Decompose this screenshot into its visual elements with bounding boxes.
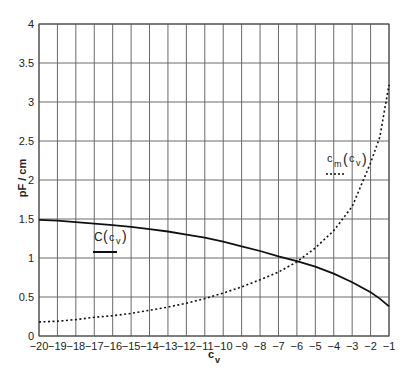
x-tick-label: −2 xyxy=(364,340,377,352)
x-tick-label: −10 xyxy=(214,340,233,352)
series-lines xyxy=(39,85,389,322)
x-tick-label: −4 xyxy=(327,340,340,352)
y-tick-label: 1 xyxy=(28,252,34,264)
x-tick-label: −7 xyxy=(272,340,285,352)
x-tick-label: −20 xyxy=(30,340,49,352)
x-tick-label: −14 xyxy=(140,340,159,352)
legend-label-c: C ( c v ) xyxy=(93,228,127,252)
x-tick-label: −1 xyxy=(383,340,396,352)
svg-text:): ) xyxy=(122,228,127,244)
svg-text:C: C xyxy=(94,230,103,244)
y-tick-label: 4 xyxy=(28,18,34,30)
x-tick-label: −18 xyxy=(67,340,86,352)
x-tick-label: −19 xyxy=(48,340,67,352)
svg-text:(: ( xyxy=(343,151,348,167)
svg-text:v: v xyxy=(215,355,220,365)
y-tick-label: 2 xyxy=(28,174,34,186)
chart: 00.511.522.533.54 −20−19−18−17−16−15−14−… xyxy=(0,0,410,376)
x-tick-label: −17 xyxy=(85,340,104,352)
x-tick-label: −16 xyxy=(103,340,122,352)
y-tick-label: 3 xyxy=(28,96,34,108)
svg-text:v: v xyxy=(356,158,361,168)
y-tick-label: 3.5 xyxy=(19,57,34,69)
x-tick-label: −3 xyxy=(346,340,359,352)
y-axis-label: pF / cm xyxy=(16,159,28,198)
x-tick-label: −8 xyxy=(254,340,267,352)
x-tick-label: −9 xyxy=(235,340,248,352)
svg-text:(: ( xyxy=(103,228,108,244)
grid-lines xyxy=(39,24,389,336)
svg-text:c: c xyxy=(208,348,214,360)
y-tick-label: 0.5 xyxy=(19,291,34,303)
svg-text:v: v xyxy=(116,236,121,246)
series-cm-line xyxy=(39,85,389,322)
y-tick-label: 2.5 xyxy=(19,135,34,147)
svg-text:): ) xyxy=(362,151,367,167)
svg-text:c: c xyxy=(327,152,333,164)
svg-text:c: c xyxy=(109,231,115,243)
y-tick-label: 1.5 xyxy=(19,213,34,225)
svg-text:c: c xyxy=(349,152,355,164)
x-tick-label: −6 xyxy=(291,340,304,352)
x-tick-label: −15 xyxy=(122,340,141,352)
x-tick-label: −13 xyxy=(159,340,178,352)
svg-text:m: m xyxy=(334,159,342,169)
x-tick-label: −12 xyxy=(177,340,196,352)
legend-label-cm: c m ( c v ) xyxy=(326,151,367,174)
series-c-line xyxy=(39,220,389,307)
x-tick-label: −5 xyxy=(309,340,322,352)
